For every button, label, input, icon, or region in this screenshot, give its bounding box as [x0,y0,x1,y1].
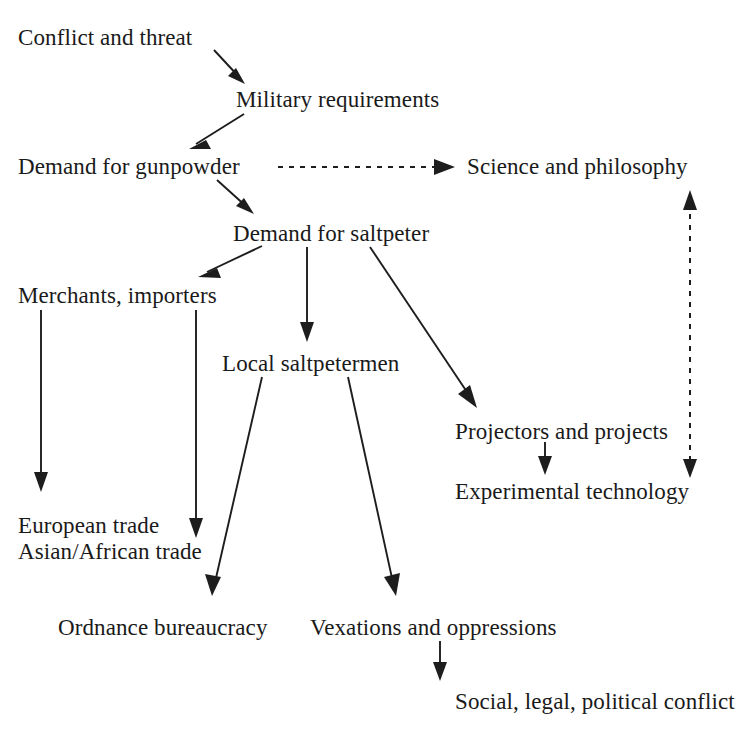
edge-gunpowder-to-saltpeter [217,180,254,214]
node-conflict-and-threat: Conflict and threat [18,24,192,52]
edge-saltpeter-to-merchants [198,246,262,278]
node-demand-for-gunpowder: Demand for gunpowder [18,153,240,181]
edge-conflict-to-military [214,50,245,84]
node-social-legal-political-conflict: Social, legal, political conflict [455,688,735,716]
node-asian-african-trade-line: Asian/African trade [18,539,202,565]
node-demand-for-saltpeter: Demand for saltpeter [233,220,429,248]
edge-saltpetermen-to-ordnance [205,377,262,596]
node-merchants-importers: Merchants, importers [18,282,217,310]
edge-saltpeter-to-saltpetermen [300,247,314,342]
edge-projectors-to-exptech [538,442,552,475]
node-vexations-and-oppressions: Vexations and oppressions [310,614,557,642]
node-local-saltpetermen: Local saltpetermen [222,350,399,378]
edge-gunpowder-to-science [278,159,455,175]
edge-merchants-to-european [34,310,48,492]
edge-military-to-gunpowder [189,114,244,149]
edge-merchants-to-asian [189,310,203,538]
edge-saltpetermen-to-vexations [348,377,400,596]
node-experimental-technology: Experimental technology [455,478,689,506]
edge-science-exptech-link [683,190,697,478]
edge-vexations-to-social [433,641,447,681]
node-ordnance-bureaucracy: Ordnance bureaucracy [58,614,268,642]
edge-saltpeter-to-projectors [370,247,477,408]
node-projectors-and-projects: Projectors and projects [455,418,668,446]
flow-diagram: Science and philosophy --> [0,0,754,736]
node-european-trade-line: European trade [18,513,159,538]
node-science-and-philosophy: Science and philosophy [467,153,688,181]
node-trade: European trade Asian/African trade [18,513,202,565]
node-military-requirements: Military requirements [236,86,439,114]
